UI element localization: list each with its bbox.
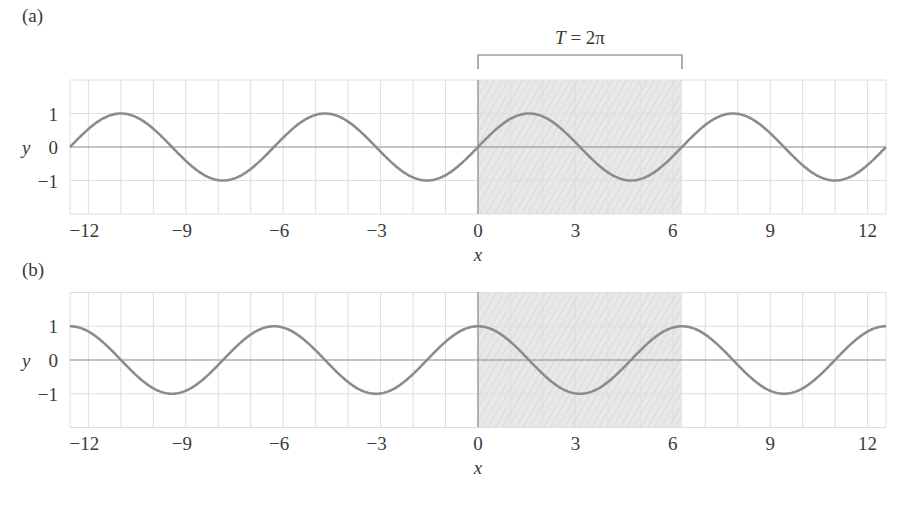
x-tick-label: −6 [269, 433, 289, 454]
panel-label: (a) [22, 5, 43, 27]
y-axis-label: y [20, 137, 31, 158]
x-tick-label: −9 [172, 433, 192, 454]
x-axis-label: x [473, 244, 483, 265]
period-value: = 2π [566, 27, 606, 48]
x-tick-label: 9 [765, 433, 775, 454]
panel-a: (a)10−1y−12−9−6−3036912x [20, 5, 886, 265]
x-tick-label: −6 [269, 220, 289, 241]
x-tick-label: 3 [571, 433, 581, 454]
x-tick-label: 12 [858, 433, 877, 454]
panel-b: (b)10−1y−12−9−6−3036912x [20, 259, 886, 478]
x-tick-label: 12 [858, 220, 877, 241]
x-tick-label: −3 [366, 220, 386, 241]
y-tick-label: 0 [49, 137, 59, 158]
x-tick-label: −12 [70, 433, 100, 454]
panel-label: (b) [22, 259, 44, 281]
period-annotation: T = 2π [478, 27, 682, 69]
x-tick-label: −9 [172, 220, 192, 241]
y-axis-label: y [20, 350, 31, 371]
x-tick-label: 9 [765, 220, 775, 241]
x-tick-label: 6 [668, 220, 678, 241]
y-tick-label: −1 [38, 171, 58, 192]
x-tick-label: 6 [668, 433, 678, 454]
x-tick-label: −12 [70, 220, 100, 241]
x-tick-label: 3 [571, 220, 581, 241]
y-tick-label: 0 [49, 350, 59, 371]
x-tick-label: 0 [473, 220, 483, 241]
x-axis-label: x [473, 457, 483, 478]
period-label: T = 2π [555, 27, 605, 48]
y-tick-label: −1 [38, 384, 58, 405]
chart-figure: (a)10−1y−12−9−6−3036912x(b)10−1y−12−9−6−… [0, 0, 915, 510]
x-tick-label: −3 [366, 433, 386, 454]
period-bracket [478, 55, 682, 69]
y-tick-label: 1 [49, 104, 59, 125]
x-tick-label: 0 [473, 433, 483, 454]
y-tick-label: 1 [49, 316, 59, 337]
